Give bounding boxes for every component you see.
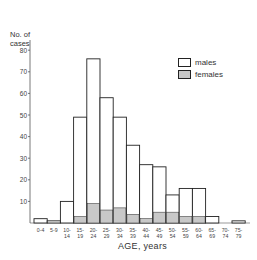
x-tick-label: 5-9 <box>50 227 58 233</box>
bar-males <box>60 201 73 223</box>
legend: males females <box>178 57 223 81</box>
y-tick-label: 40 <box>20 133 28 140</box>
males-swatch <box>178 58 191 67</box>
bar-males <box>126 145 139 223</box>
histogram-chart: 10203040506070800-45-910-1415-1920-2425-… <box>0 0 257 260</box>
y-tick-label: 10 <box>20 198 28 205</box>
bar-females <box>167 212 179 223</box>
bar-males <box>140 165 153 223</box>
x-tick-label-line2: 49 <box>157 233 163 239</box>
x-tick-label-line2: 59 <box>183 233 189 239</box>
x-axis-label: AGE, years <box>0 241 257 251</box>
females-swatch <box>178 70 191 79</box>
legend-item-males: males <box>178 57 223 68</box>
x-tick-label-line2: 39 <box>130 233 136 239</box>
legend-label-males: males <box>195 58 216 67</box>
bar-males <box>113 117 126 223</box>
bar-females <box>114 208 126 223</box>
bar-females <box>74 217 86 223</box>
y-tick-label: 50 <box>20 112 28 119</box>
x-tick-label-line2: 54 <box>170 233 176 239</box>
x-tick-label: 0-4 <box>37 227 45 233</box>
bar-males <box>47 221 60 223</box>
legend-item-females: females <box>178 69 223 80</box>
bar-males <box>232 221 245 223</box>
bar-females <box>180 217 192 223</box>
y-tick-label: 70 <box>20 68 28 75</box>
x-tick-label-line2: 34 <box>117 233 123 239</box>
legend-label-females: females <box>195 70 223 79</box>
y-tick-label: 20 <box>20 176 28 183</box>
y-tick-label: 30 <box>20 155 28 162</box>
x-tick-label-line2: 29 <box>104 233 110 239</box>
bar-males <box>87 59 100 223</box>
x-tick-label-line2: 24 <box>91 233 97 239</box>
bar-males <box>100 98 113 223</box>
bar-males <box>206 217 219 223</box>
bar-females <box>153 212 165 223</box>
y-axis-label-line2: cases <box>10 39 30 48</box>
bar-females <box>193 217 205 223</box>
y-axis-label: No. of cases <box>10 30 30 48</box>
bar-females <box>101 210 113 223</box>
x-tick-label-line2: 64 <box>196 233 202 239</box>
y-tick-label: 60 <box>20 90 28 97</box>
x-tick-label-line2: 14 <box>64 233 70 239</box>
y-axis-label-line1: No. of <box>10 30 30 39</box>
bar-females <box>87 204 99 223</box>
bar-males <box>34 219 47 223</box>
bar-females <box>140 219 152 223</box>
x-tick-label-line2: 44 <box>143 233 149 239</box>
x-tick-label-line2: 74 <box>223 233 229 239</box>
bar-females <box>127 214 139 223</box>
bar-males <box>74 117 87 223</box>
x-tick-label-line2: 69 <box>209 233 215 239</box>
x-tick-label-line2: 19 <box>77 233 83 239</box>
x-tick-label-line2: 79 <box>236 233 242 239</box>
